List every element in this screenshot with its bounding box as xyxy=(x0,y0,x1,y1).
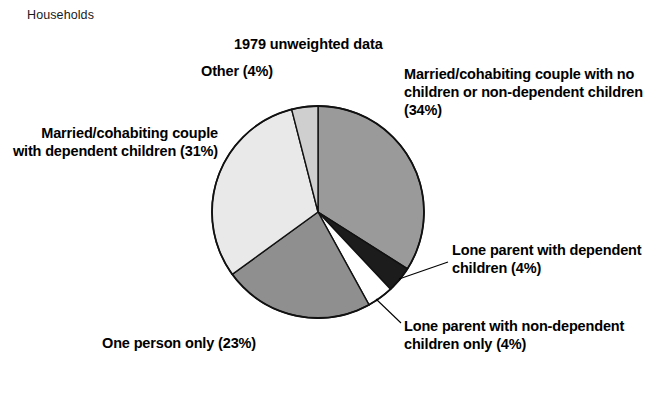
pie-label-one-person-only: One person only (23%) xyxy=(102,335,256,353)
pie-label-other: Other (4%) xyxy=(201,63,273,81)
chart-page: Households 1979 unweighted data Other (4… xyxy=(0,0,657,402)
leader-line-lone-parent-non-dependent xyxy=(376,299,401,323)
pie-label-married-no-children: Married/cohabiting couple with no childr… xyxy=(404,66,648,120)
pie-label-lone-parent-dependent: Lone parent with dependent children (4%) xyxy=(452,242,652,278)
pie-label-married-dependent: Married/cohabiting couple with dependent… xyxy=(10,125,218,161)
pie-label-lone-parent-non-dependent: Lone parent with non-dependent children … xyxy=(404,318,654,354)
